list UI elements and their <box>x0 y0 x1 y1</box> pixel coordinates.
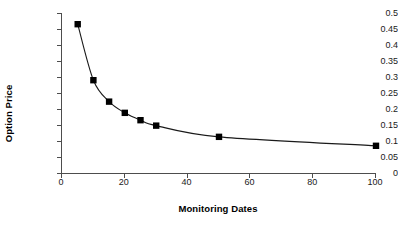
x-tick-label: 100 <box>355 178 395 187</box>
y-tick-mark <box>57 61 61 62</box>
plot-area <box>61 13 376 174</box>
y-tick-label: 0.45 <box>346 25 398 34</box>
x-tick-label: 40 <box>167 178 207 187</box>
x-tick-label: 20 <box>104 178 144 187</box>
series-plot <box>62 13 376 173</box>
x-tick-label: 0 <box>41 178 81 187</box>
y-tick-mark <box>57 109 61 110</box>
y-tick-mark <box>57 125 61 126</box>
y-tick-label: 0.3 <box>346 73 398 82</box>
y-tick-label: 0.25 <box>346 89 398 98</box>
x-tick-mark <box>187 174 188 178</box>
x-tick-label: 60 <box>229 178 269 187</box>
data-point-marker <box>106 98 112 104</box>
y-tick-mark <box>57 45 61 46</box>
x-tick-mark <box>312 174 313 178</box>
x-tick-mark <box>249 174 250 178</box>
y-tick-mark <box>57 157 61 158</box>
y-tick-label: 0.35 <box>346 57 398 66</box>
y-tick-mark <box>57 141 61 142</box>
x-tick-mark <box>61 174 62 178</box>
y-tick-label: 0.1 <box>346 137 398 146</box>
series-line <box>78 24 376 146</box>
x-tick-mark <box>375 174 376 178</box>
x-axis-title: Monitoring Dates <box>61 203 375 214</box>
x-tick-mark <box>124 174 125 178</box>
y-tick-mark <box>57 13 61 14</box>
y-tick-label: 0.4 <box>346 41 398 50</box>
data-point-marker <box>153 122 159 128</box>
data-point-marker <box>122 110 128 116</box>
y-tick-label: 0.2 <box>346 105 398 114</box>
x-tick-label: 80 <box>292 178 332 187</box>
data-point-marker <box>75 21 81 27</box>
y-tick-label: 0.05 <box>346 153 398 162</box>
y-tick-label: 0.15 <box>346 121 398 130</box>
y-tick-mark <box>57 29 61 30</box>
data-point-marker <box>90 77 96 83</box>
y-tick-mark <box>57 77 61 78</box>
data-point-marker <box>216 134 222 140</box>
data-point-marker <box>137 117 143 123</box>
y-tick-mark <box>57 93 61 94</box>
y-tick-label: 0.5 <box>346 9 398 18</box>
option-price-line-chart: Option Price 00.050.10.150.20.250.30.350… <box>0 0 398 227</box>
y-axis-title: Option Price <box>0 0 16 227</box>
